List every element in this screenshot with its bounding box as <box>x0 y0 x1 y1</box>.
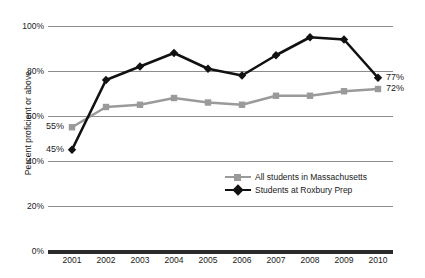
value-annotation: 72% <box>386 84 404 93</box>
value-annotation: 45% <box>46 145 64 154</box>
legend-label: All students in Massachusetts <box>251 172 367 182</box>
value-annotation: 77% <box>386 73 404 82</box>
legend-item-2[interactable]: Students at Roxbury Prep <box>225 183 405 196</box>
y-tick-label: 100% <box>14 22 44 31</box>
line-chart: Percent proficient or above 0%20%40%60%8… <box>0 0 425 278</box>
data-point-marker <box>136 62 144 70</box>
series-line <box>72 89 378 127</box>
series-layer <box>48 0 393 278</box>
y-tick-label: 80% <box>14 67 44 76</box>
data-point-marker <box>205 99 211 105</box>
legend-item-1[interactable]: All students in Massachusetts <box>225 170 405 183</box>
y-tick-label: 0% <box>14 247 44 256</box>
series-1 <box>69 86 381 131</box>
data-point-marker <box>171 95 177 101</box>
x-tick-label: 2010 <box>358 256 398 265</box>
value-annotation: 55% <box>46 122 64 131</box>
y-tick-label: 20% <box>14 202 44 211</box>
data-point-marker <box>137 102 143 108</box>
legend-label: Students at Roxbury Prep <box>251 185 352 195</box>
legend-diamond-icon <box>225 183 251 196</box>
y-tick-label: 40% <box>14 157 44 166</box>
data-point-marker <box>102 76 110 84</box>
chart-legend: All students in MassachusettsStudents at… <box>225 170 405 196</box>
y-axis-tick-labels: 0%20%40%60%80%100% <box>12 0 44 278</box>
data-point-marker <box>375 86 381 92</box>
data-point-marker <box>239 102 245 108</box>
data-point-marker <box>68 146 76 154</box>
data-point-marker <box>307 93 313 99</box>
data-point-marker <box>273 93 279 99</box>
data-point-marker <box>170 49 178 57</box>
data-point-marker <box>103 104 109 110</box>
data-point-marker <box>204 65 212 73</box>
data-point-marker <box>69 124 75 130</box>
legend-square-icon <box>225 170 251 183</box>
x-axis-tick-labels: 2001200220032004200520062007200820092010 <box>48 256 393 274</box>
data-point-marker <box>341 88 347 94</box>
y-tick-label: 60% <box>14 112 44 121</box>
